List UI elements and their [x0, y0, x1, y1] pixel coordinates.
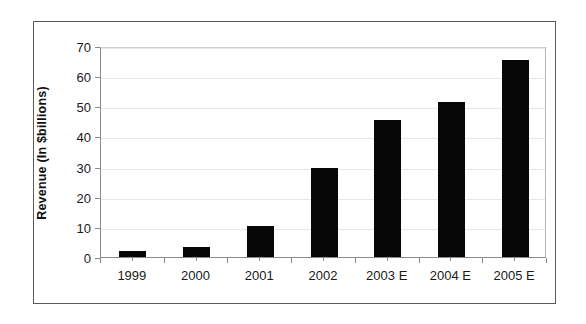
x-axis-tick-mark — [546, 258, 547, 263]
x-axis-tick-label: 2001 — [224, 268, 294, 283]
y-axis-tick-label: 40 — [61, 130, 91, 145]
gridline — [101, 108, 545, 109]
x-axis-tick-mark-minor — [387, 258, 388, 261]
y-axis-tick-label: 50 — [61, 100, 91, 115]
y-axis-tick-label: 20 — [61, 190, 91, 205]
plot-area — [100, 47, 546, 258]
x-axis-tick-label: 2005 E — [479, 268, 549, 283]
x-axis-tick-mark-minor — [132, 258, 133, 261]
x-axis-tick-label: 1999 — [97, 268, 167, 283]
y-axis-tick-label: 60 — [61, 70, 91, 85]
x-axis-tick-label: 2002 — [288, 268, 358, 283]
bar — [247, 226, 274, 257]
x-axis-tick-mark-minor — [259, 258, 260, 261]
y-axis-tick-label: 30 — [61, 160, 91, 175]
bar — [183, 247, 210, 257]
x-axis-tick-mark — [355, 258, 356, 263]
bar — [119, 251, 146, 257]
x-axis-tick-mark-minor — [323, 258, 324, 261]
chart-figure: Revenue (In $billions) 010203040506070 1… — [0, 0, 586, 324]
x-axis-tick-label: 2003 E — [352, 268, 422, 283]
x-axis-tick-mark-minor — [450, 258, 451, 261]
x-axis-tick-label: 2004 E — [415, 268, 485, 283]
y-axis-tick-label: 70 — [61, 40, 91, 55]
bar — [438, 102, 465, 257]
gridline — [101, 138, 545, 139]
gridline — [101, 78, 545, 79]
x-axis-tick-mark-minor — [196, 258, 197, 261]
x-axis-tick-mark — [419, 258, 420, 263]
y-axis-title: Revenue (In $billions) — [34, 47, 50, 258]
bar — [374, 120, 401, 257]
x-axis-tick-mark — [164, 258, 165, 263]
x-axis-tick-label: 2000 — [161, 268, 231, 283]
x-axis-tick-mark — [291, 258, 292, 263]
y-axis-tick-label: 0 — [61, 251, 91, 266]
y-axis-tick-label: 10 — [61, 220, 91, 235]
y-axis-title-text: Revenue (In $billions) — [35, 86, 49, 220]
x-axis-tick-mark — [482, 258, 483, 263]
bar — [311, 168, 338, 257]
gridline — [101, 48, 545, 49]
x-axis-tick-mark — [100, 258, 101, 263]
x-axis-tick-mark — [227, 258, 228, 263]
x-axis-tick-mark-minor — [514, 258, 515, 261]
bar — [502, 60, 529, 257]
